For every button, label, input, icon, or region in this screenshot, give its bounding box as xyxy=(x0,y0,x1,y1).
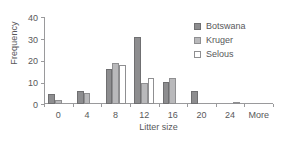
y-tick-label: 20 xyxy=(28,56,38,66)
x-tick-label: 4 xyxy=(84,110,89,120)
bar xyxy=(163,82,170,104)
legend-label: Kruger xyxy=(206,35,233,45)
y-tick-label: 0 xyxy=(33,100,38,110)
legend-item-kruger[interactable]: Kruger xyxy=(194,33,246,47)
x-tick-label: 8 xyxy=(113,110,118,120)
bar xyxy=(84,93,91,104)
bar xyxy=(112,63,119,104)
x-tick-label: 0 xyxy=(56,110,61,120)
legend-label: Botswana xyxy=(206,21,246,31)
legend-swatch-icon xyxy=(194,23,201,30)
legend-label: Selous xyxy=(206,49,234,59)
bar xyxy=(48,94,55,104)
x-tick-mark xyxy=(216,104,217,107)
y-tick-label: 40 xyxy=(28,13,38,23)
y-tick-label: 30 xyxy=(28,35,38,45)
x-tick-label: 20 xyxy=(196,110,206,120)
x-tick-label: More xyxy=(248,110,269,120)
bar xyxy=(55,100,62,104)
y-tick: 40 xyxy=(28,8,44,26)
x-tick-mark xyxy=(159,104,160,107)
bar xyxy=(233,102,240,104)
x-tick-mark xyxy=(73,104,74,107)
bar xyxy=(191,91,198,104)
x-tick-mark xyxy=(273,104,274,107)
chart-legend: BotswanaKrugerSelous xyxy=(194,19,246,61)
y-tick-label: 10 xyxy=(28,78,38,88)
bar xyxy=(148,78,155,104)
legend-item-botswana[interactable]: Botswana xyxy=(194,19,246,33)
x-tick-label: 12 xyxy=(139,110,149,120)
y-tick: 10 xyxy=(28,73,44,91)
legend-swatch-icon xyxy=(194,37,201,44)
legend-swatch-icon xyxy=(194,51,201,58)
legend-item-selous[interactable]: Selous xyxy=(194,47,246,61)
x-tick-mark xyxy=(130,104,131,107)
bar xyxy=(119,65,126,104)
x-tick-mark xyxy=(44,104,45,107)
x-tick-label: 24 xyxy=(225,110,235,120)
bar xyxy=(106,69,113,104)
bar xyxy=(134,37,141,104)
x-tick-mark xyxy=(187,104,188,107)
x-axis-title: Litter size xyxy=(44,122,273,132)
y-tick: 20 xyxy=(28,52,44,70)
y-tick: 0 xyxy=(33,95,44,113)
bar xyxy=(141,83,148,104)
y-axis-title: Frequency xyxy=(9,8,19,78)
x-tick-label: 16 xyxy=(168,110,178,120)
bar xyxy=(169,78,176,104)
x-tick-mark xyxy=(244,104,245,107)
bar xyxy=(77,91,84,104)
bar-chart: Frequency 010203040 04812162024More Litt… xyxy=(0,0,283,141)
x-tick-mark xyxy=(101,104,102,107)
y-tick: 30 xyxy=(28,30,44,48)
